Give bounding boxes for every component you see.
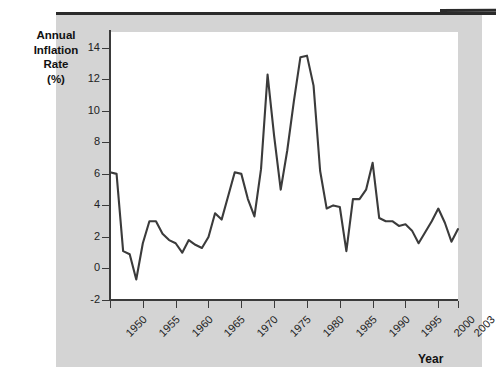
- series-layer: [0, 0, 496, 380]
- chart-figure: Annual Inflation Rate (%) Year -20246810…: [0, 0, 496, 380]
- line-series-annual-inflation-rate: [110, 56, 458, 280]
